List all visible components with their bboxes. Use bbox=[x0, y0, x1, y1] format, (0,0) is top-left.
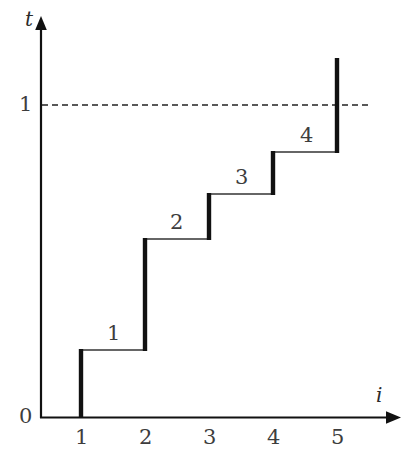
x-tick-label-4: 4 bbox=[267, 427, 280, 448]
x-tick-label-2: 2 bbox=[139, 427, 152, 448]
staircase-figure: t i 1 0 1 2 3 4 5 1 2 3 4 bbox=[0, 0, 409, 466]
x-axis-label: i bbox=[376, 385, 382, 405]
plot-canvas bbox=[0, 0, 409, 466]
y-tick-label-1: 1 bbox=[19, 94, 32, 115]
step-label-3: 3 bbox=[235, 167, 248, 188]
step-label-1: 1 bbox=[107, 323, 120, 344]
y-tick-label-0: 0 bbox=[19, 406, 32, 427]
x-tick-label-1: 1 bbox=[75, 427, 88, 448]
x-tick-label-3: 3 bbox=[203, 427, 216, 448]
step-label-2: 2 bbox=[170, 212, 183, 233]
y-axis-arrowhead bbox=[35, 16, 47, 30]
step-label-4: 4 bbox=[300, 125, 313, 146]
x-axis-arrowhead bbox=[386, 411, 401, 424]
y-axis-label: t bbox=[25, 9, 33, 29]
x-tick-label-5: 5 bbox=[331, 427, 344, 448]
